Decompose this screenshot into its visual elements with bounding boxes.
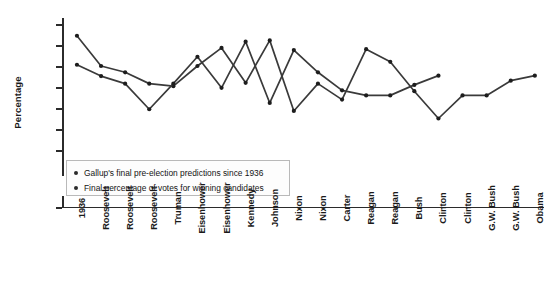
data-point-marker <box>340 98 344 102</box>
y-tick-mark <box>56 87 62 89</box>
series-line <box>77 42 439 110</box>
y-tick-mark <box>56 24 62 26</box>
x-tick-label: Clinton <box>463 192 473 223</box>
data-point-marker <box>388 93 392 97</box>
data-point-marker <box>219 86 223 90</box>
data-point-marker <box>316 70 320 74</box>
x-tick-label: Obama <box>535 192 545 223</box>
data-point-marker <box>147 82 151 86</box>
x-tick-label: Eisenhower <box>222 182 232 233</box>
x-tick-label: 1936 <box>77 198 87 218</box>
data-point-marker <box>460 93 464 97</box>
x-tick-label: Roosevelt <box>125 186 135 230</box>
data-point-marker <box>123 70 127 74</box>
legend-marker-dot <box>74 171 78 175</box>
x-tick-label: Reagan <box>366 192 376 225</box>
x-tick-label-wrap: Roosevelt <box>118 208 132 290</box>
legend-item-gallup: Gallup's final pre-election predictions … <box>74 165 283 180</box>
x-tick-label-wrap: Nixon <box>311 208 325 290</box>
legend-label-gallup: Gallup's final pre-election predictions … <box>84 168 263 178</box>
x-tick-label: G.W. Bush <box>511 185 521 231</box>
data-point-marker <box>195 64 199 68</box>
y-axis-line-upper <box>62 18 64 176</box>
x-tick-label: Clinton <box>438 192 448 223</box>
data-point-marker <box>533 74 537 78</box>
data-point-marker <box>195 55 199 59</box>
chart-figure: Percentage 656055504540350 Gallup's fina… <box>0 0 551 293</box>
x-tick-label: Carter <box>342 195 352 222</box>
x-tick-label-wrap: Eisenhower <box>215 208 229 290</box>
data-point-marker <box>436 74 440 78</box>
data-point-marker <box>436 116 440 120</box>
x-tick-label-wrap: Clinton <box>431 208 445 290</box>
x-tick-label: Eisenhower <box>197 182 207 233</box>
y-tick-mark <box>56 108 62 110</box>
data-point-marker <box>412 83 416 87</box>
x-tick-label-wrap: Reagan <box>359 208 373 290</box>
x-tick-label-wrap: Carter <box>335 208 349 290</box>
data-point-marker <box>340 88 344 92</box>
x-tick-label: Bush <box>414 197 424 220</box>
x-tick-label-wrap: Roosevelt <box>94 208 108 290</box>
data-point-marker <box>268 101 272 105</box>
x-tick-label-wrap: 1936 <box>70 208 84 290</box>
data-point-marker <box>292 48 296 52</box>
x-tick-label-wrap: Truman <box>166 208 180 290</box>
data-point-marker <box>147 107 151 111</box>
data-point-marker <box>171 84 175 88</box>
data-point-marker <box>268 38 272 42</box>
data-point-marker <box>75 63 79 67</box>
x-tick-label-wrap: Clinton <box>456 208 470 290</box>
series-line <box>77 36 535 119</box>
x-tick-label-wrap: Johnson <box>263 208 277 290</box>
x-tick-label: Kennedy <box>246 189 256 228</box>
data-point-marker <box>364 47 368 51</box>
x-tick-label-wrap: G.W. Bush <box>504 208 518 290</box>
data-point-marker <box>412 89 416 93</box>
x-tick-label: Reagan <box>390 192 400 225</box>
x-tick-label-wrap: Roosevelt <box>142 208 156 290</box>
data-point-marker <box>316 82 320 86</box>
x-tick-label-wrap: Nixon <box>287 208 301 290</box>
x-tick-label-wrap: Reagan <box>383 208 397 290</box>
data-point-marker <box>244 40 248 44</box>
legend-marker-dot <box>74 186 78 190</box>
x-tick-label: Truman <box>173 192 183 225</box>
x-tick-label: Nixon <box>294 195 304 220</box>
x-tick-label-wrap: Kennedy <box>239 208 253 290</box>
data-point-marker <box>485 93 489 97</box>
data-point-marker <box>123 82 127 86</box>
data-point-marker <box>171 82 175 86</box>
x-tick-label: G.W. Bush <box>487 185 497 231</box>
x-tick-label-wrap: Obama <box>528 208 542 290</box>
data-point-marker <box>388 60 392 64</box>
x-tick-label: Johnson <box>270 189 280 227</box>
data-point-marker <box>244 81 248 85</box>
y-tick-mark <box>56 150 62 152</box>
data-point-marker <box>99 64 103 68</box>
data-point-marker <box>99 74 103 78</box>
x-tick-label: Roosevelt <box>149 186 159 230</box>
data-point-marker <box>364 93 368 97</box>
data-point-marker <box>219 46 223 50</box>
x-tick-label-wrap: Bush <box>407 208 421 290</box>
y-tick-mark <box>56 66 62 68</box>
y-tick-mark <box>56 129 62 131</box>
data-point-marker <box>509 79 513 83</box>
y-tick-mark <box>56 45 62 47</box>
x-tick-label: Nixon <box>318 195 328 220</box>
x-axis-labels: 1936RooseveltRooseveltRooseveltTrumanEis… <box>62 208 544 293</box>
x-tick-label-wrap: Eisenhower <box>190 208 204 290</box>
data-point-marker <box>292 109 296 113</box>
data-point-marker <box>75 34 79 38</box>
x-tick-label-wrap: G.W. Bush <box>480 208 494 290</box>
y-axis-title: Percentage <box>12 53 23 153</box>
x-tick-label: Roosevelt <box>101 186 111 230</box>
